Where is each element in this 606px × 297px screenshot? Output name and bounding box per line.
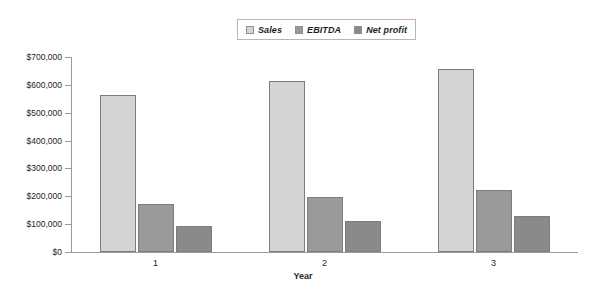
y-axis-tick-label: $300,000 [0, 163, 62, 173]
bar[interactable] [438, 69, 474, 252]
legend-label: EBITDA [307, 25, 341, 35]
y-axis-tick [65, 252, 71, 253]
legend-swatch-icon [246, 26, 254, 34]
bar[interactable] [176, 226, 212, 252]
legend-entry[interactable]: Net profit [354, 25, 407, 35]
bar[interactable] [269, 81, 305, 252]
x-axis-tick-label: 2 [322, 258, 327, 268]
plot-area [71, 57, 578, 252]
legend-label: Net profit [366, 25, 407, 35]
bar[interactable] [345, 221, 381, 252]
y-axis-tick-label: $500,000 [0, 108, 62, 118]
bar-chart: SalesEBITDANet profit $0$100,000$200,000… [0, 0, 606, 297]
bar[interactable] [514, 216, 550, 252]
x-axis-tick-label: 3 [491, 258, 496, 268]
bar-group [269, 57, 381, 252]
x-axis-title: Year [0, 271, 606, 281]
legend-label: Sales [258, 25, 282, 35]
y-axis-tick-label: $200,000 [0, 191, 62, 201]
y-axis-tick-label: $600,000 [0, 80, 62, 90]
y-axis-tick-label: $0 [0, 247, 62, 257]
y-axis-tick-label: $400,000 [0, 136, 62, 146]
x-axis-line [71, 252, 578, 253]
bar[interactable] [476, 190, 512, 252]
legend-swatch-icon [354, 26, 362, 34]
bar-group [100, 57, 212, 252]
legend-entry[interactable]: EBITDA [295, 25, 341, 35]
chart-legend: SalesEBITDANet profit [237, 19, 416, 40]
y-axis-tick-label: $700,000 [0, 52, 62, 62]
bar-group [438, 57, 550, 252]
legend-swatch-icon [295, 26, 303, 34]
y-axis-tick-label: $100,000 [0, 219, 62, 229]
legend-entry[interactable]: Sales [246, 25, 282, 35]
x-axis-tick-label: 1 [153, 258, 158, 268]
bar[interactable] [138, 204, 174, 252]
bar[interactable] [100, 95, 136, 252]
bar[interactable] [307, 197, 343, 252]
